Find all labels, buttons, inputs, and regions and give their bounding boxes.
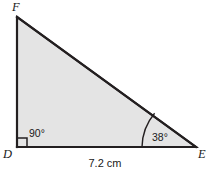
vertex-label-d: D <box>2 147 12 161</box>
vertex-label-f: F <box>11 0 20 14</box>
vertex-label-e: E <box>197 147 206 161</box>
triangle-diagram-svg: F D E 90° 38° 7.2 cm <box>0 0 211 172</box>
side-length-label-de: 7.2 cm <box>88 157 121 169</box>
angle-label-90-degrees: 90° <box>29 127 45 139</box>
angle-label-38-degrees: 38° <box>152 131 168 143</box>
geometry-figure: F D E 90° 38° 7.2 cm <box>0 0 211 172</box>
